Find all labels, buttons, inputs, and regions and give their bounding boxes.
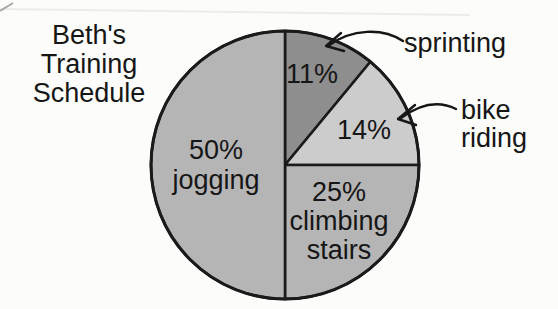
- slice-label-sprinting: 11%: [286, 60, 338, 89]
- callout-label-line: riding: [461, 124, 527, 152]
- slice-label-line: stairs: [289, 236, 388, 265]
- slice-label-line: 50%: [172, 135, 259, 165]
- chart-title-line: Schedule: [18, 79, 160, 108]
- callout-label-sprinting: sprinting: [404, 29, 506, 58]
- chart-title-line: Beth's: [18, 21, 160, 50]
- slice-label-line: jogging: [172, 165, 259, 195]
- scanned-page: Beth's Training Schedule 11% 14% 25% cli…: [0, 0, 558, 309]
- chart-title: Beth's Training Schedule: [18, 21, 160, 108]
- callout-label-bike-riding: bike riding: [461, 96, 527, 152]
- callout-label-line: bike: [461, 96, 527, 124]
- slice-label-line: 25%: [289, 178, 388, 207]
- slice-label-climbing-stairs: 25% climbing stairs: [289, 178, 388, 265]
- slice-label-bike-riding: 14%: [337, 116, 391, 145]
- chart-title-line: Training: [18, 50, 160, 79]
- slice-label-jogging: 50% jogging: [172, 135, 259, 195]
- slice-label-line: climbing: [289, 207, 388, 236]
- scan-artifact-fold-line: [0, 9, 470, 15]
